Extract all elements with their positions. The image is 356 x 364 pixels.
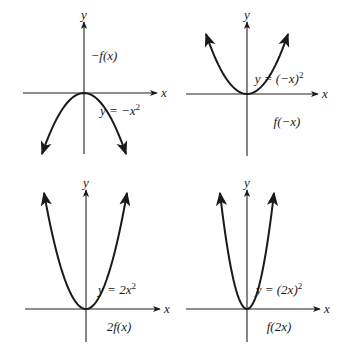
x-axis-label: x [163,301,170,316]
equation-label: y = (−x)2 [253,70,304,86]
panel-neg-f: x y y = −x2 −f(x) [23,7,167,154]
transform-label: f(2x) [267,319,292,334]
panel-f-neg-x: x y y = (−x)2 f(−x) [186,7,328,156]
equation-label: y = 2x2 [96,281,136,297]
transform-label: 2f(x) [107,319,132,334]
y-axis-label: y [79,7,87,22]
panel-f-two-x: x y y = (2x)2 f(2x) [186,175,330,342]
panel-two-f: x y y = 2x2 2f(x) [25,175,170,342]
x-axis-label: x [321,86,328,101]
equation-label: y = (2x)2 [254,281,302,297]
equation-label: y = −x2 [98,102,140,118]
x-axis-label: x [323,301,330,316]
transform-label: −f(x) [91,48,118,63]
y-axis-label: y [242,175,250,190]
transform-label: f(−x) [274,114,301,129]
y-axis-label: y [81,175,89,190]
x-axis-label: x [160,85,167,100]
y-axis-label: y [242,7,250,22]
parabola-transformations-diagram: x y y = −x2 −f(x) x y y = (−x)2 f(−x) x … [0,0,356,364]
